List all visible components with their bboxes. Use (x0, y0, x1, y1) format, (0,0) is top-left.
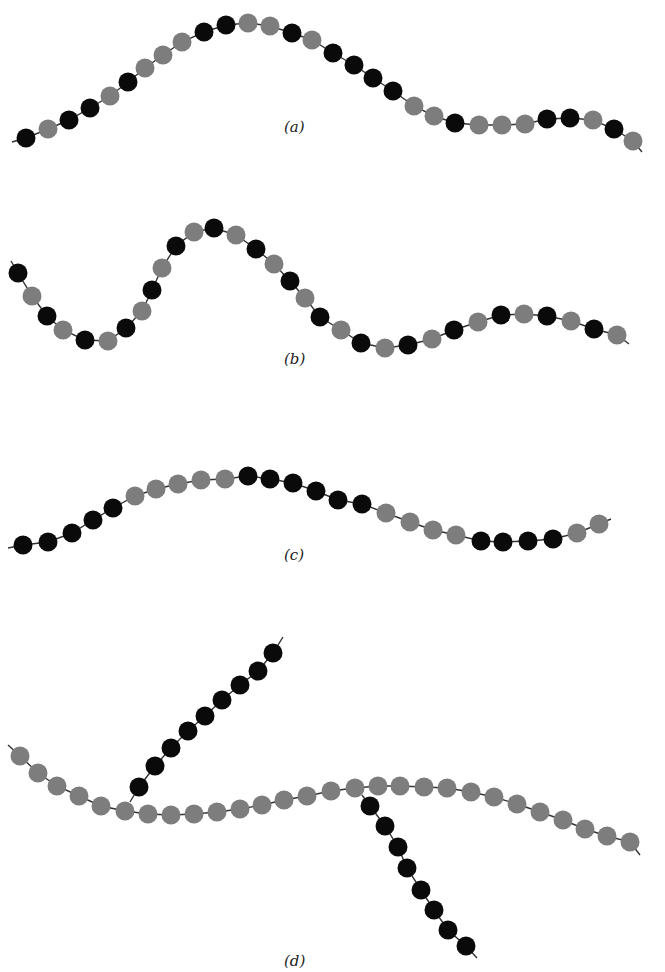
grey-bead (126, 487, 145, 506)
black-bead (195, 23, 214, 42)
grey-bead (48, 777, 67, 796)
black-bead (217, 16, 236, 35)
grey-bead (23, 287, 42, 306)
grey-bead (584, 111, 603, 130)
black-bead (119, 73, 138, 92)
black-bead (264, 644, 283, 663)
strand-line (11, 228, 629, 348)
black-bead (84, 511, 103, 530)
black-bead (544, 530, 563, 549)
black-bead (63, 524, 82, 543)
grey-bead (208, 803, 227, 822)
panel-a (12, 14, 643, 153)
grey-bead (70, 787, 89, 806)
bead-chain-canvas (0, 0, 665, 972)
grey-bead (531, 803, 550, 822)
grey-bead (376, 339, 395, 358)
black-bead (389, 838, 408, 857)
grey-bead (425, 107, 444, 126)
black-bead (538, 110, 557, 129)
panel-b (9, 219, 630, 358)
grey-bead (39, 120, 58, 139)
grey-bead (11, 747, 30, 766)
grey-bead (621, 833, 640, 852)
grey-bead (169, 475, 188, 494)
grey-bead (54, 321, 73, 340)
grey-bead (346, 779, 365, 798)
chain-d-branch-down (361, 795, 478, 958)
panel-label-b: (b) (284, 350, 305, 368)
black-bead (585, 320, 604, 339)
grey-bead (447, 526, 466, 545)
black-bead (445, 321, 464, 340)
grey-bead (515, 305, 534, 324)
black-bead (538, 307, 557, 326)
grey-bead (275, 791, 294, 810)
grey-bead (136, 59, 155, 78)
grey-bead (576, 820, 595, 839)
chain-b (9, 219, 630, 358)
black-bead (364, 69, 383, 88)
diagram-figure: (a) (b) (c) (d) (0, 0, 665, 972)
black-bead (213, 691, 232, 710)
black-bead (472, 532, 491, 551)
grey-bead (185, 223, 204, 242)
grey-bead (154, 46, 173, 65)
panel-label-a: (a) (284, 118, 305, 136)
black-bead (167, 237, 186, 256)
black-bead (117, 319, 136, 338)
grey-bead (253, 796, 272, 815)
grey-bead (554, 811, 573, 830)
grey-bead (101, 87, 120, 106)
grey-bead (298, 787, 317, 806)
black-bead (439, 921, 458, 940)
black-bead (384, 82, 403, 101)
grey-bead (624, 132, 643, 151)
grey-bead (296, 289, 315, 308)
black-bead (283, 24, 302, 43)
black-bead (412, 881, 431, 900)
grey-bead (405, 97, 424, 116)
black-bead (239, 467, 258, 486)
grey-bead (470, 116, 489, 135)
black-bead (311, 308, 330, 327)
black-bead (446, 114, 465, 133)
grey-bead (303, 31, 322, 50)
grey-bead (332, 321, 351, 340)
black-bead (361, 797, 380, 816)
grey-bead (147, 480, 166, 499)
black-bead (81, 99, 100, 118)
black-bead (17, 129, 36, 148)
black-bead (9, 264, 28, 283)
black-bead (457, 937, 476, 956)
black-bead (179, 722, 198, 741)
black-bead (605, 120, 624, 139)
black-bead (146, 757, 165, 776)
black-bead (561, 109, 580, 128)
black-bead (284, 474, 303, 493)
black-bead (261, 470, 280, 489)
black-bead (14, 536, 33, 555)
black-bead (519, 532, 538, 551)
grey-bead (590, 515, 609, 534)
grey-bead (423, 330, 442, 349)
black-bead (247, 240, 266, 259)
black-bead (376, 817, 395, 836)
grey-bead (153, 259, 172, 278)
grey-bead (133, 302, 152, 321)
black-bead (353, 495, 372, 514)
grey-bead (562, 312, 581, 331)
black-bead (196, 707, 215, 726)
grey-bead (239, 14, 258, 33)
grey-bead (608, 326, 627, 345)
grey-bead (516, 115, 535, 134)
grey-bead (99, 332, 118, 351)
black-bead (324, 44, 343, 63)
black-bead (494, 533, 513, 552)
black-bead (492, 306, 511, 325)
black-bead (39, 533, 58, 552)
grey-bead (92, 797, 111, 816)
grey-bead (415, 778, 434, 797)
black-bead (130, 778, 149, 797)
grey-bead (322, 782, 341, 801)
